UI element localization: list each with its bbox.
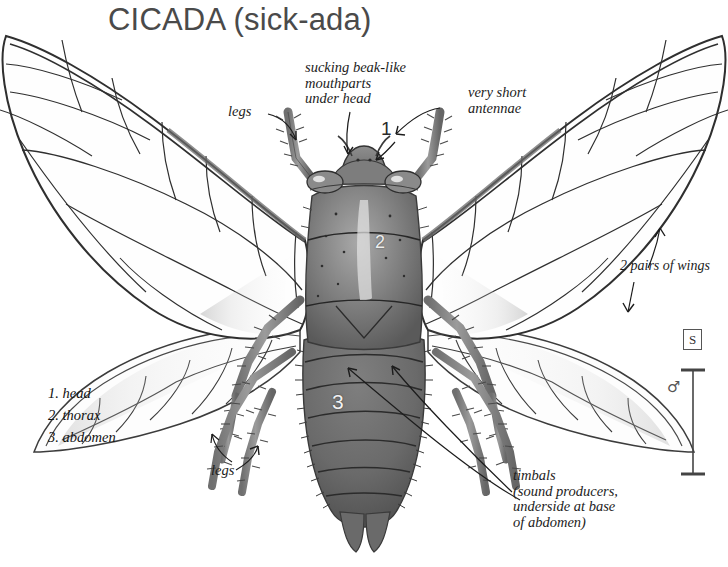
abdomen	[295, 333, 433, 553]
size-code-box: S	[683, 329, 702, 350]
label-legs-lower: legs	[211, 463, 234, 479]
illustration-page: CICADA (sick-ada)	[0, 0, 728, 567]
label-legs-upper: legs	[228, 104, 251, 120]
forewing-left	[0, 36, 310, 339]
legend-list: 1. head 2. thorax 3. abdomen	[48, 382, 116, 448]
label-timbals: timbals (sound producers, underside at b…	[513, 468, 618, 530]
legend-item-1: 1. head	[48, 382, 116, 404]
thorax	[301, 186, 429, 350]
head	[307, 136, 421, 193]
legend-item-2: 2. thorax	[48, 404, 116, 426]
body-number-abdomen: 3	[332, 390, 344, 414]
scale-bar	[681, 370, 705, 474]
label-antennae: very short antennae	[468, 85, 526, 116]
label-mouthparts: sucking beak-like mouthparts under head	[305, 60, 406, 107]
male-symbol: ♂	[667, 378, 680, 396]
label-wings: 2 pairs of wings	[620, 258, 710, 273]
forewing-right	[418, 36, 728, 339]
body-number-head: 1	[381, 118, 392, 140]
legend-item-3: 3. abdomen	[48, 426, 116, 448]
body-number-thorax: 2	[375, 232, 385, 253]
